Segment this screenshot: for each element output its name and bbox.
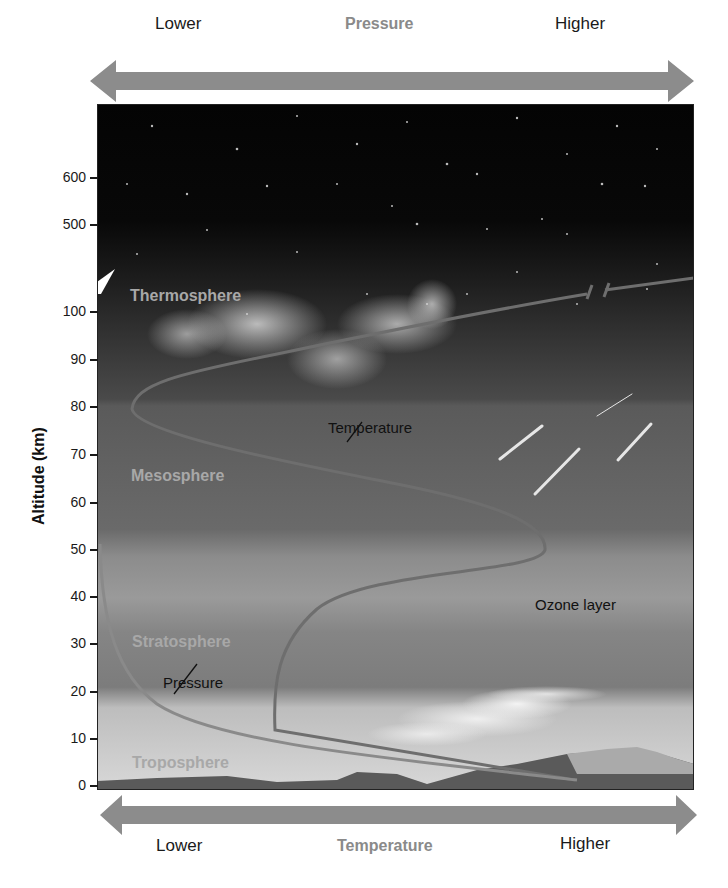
y-tick-label: 10 bbox=[46, 730, 86, 746]
y-tick-mark bbox=[90, 691, 98, 693]
y-tick-label: 60 bbox=[46, 494, 86, 510]
annotation-pressure: Pressure bbox=[163, 674, 223, 691]
y-tick-mark bbox=[90, 643, 98, 645]
y-tick-label: 20 bbox=[46, 683, 86, 699]
annotation-ozone-layer: Ozone layer bbox=[535, 596, 616, 613]
y-tick-mark bbox=[90, 738, 98, 740]
y-tick-mark bbox=[90, 454, 98, 456]
annotation-temperature: Temperature bbox=[328, 419, 412, 436]
y-tick-mark bbox=[90, 359, 98, 361]
y-tick-label: 30 bbox=[46, 635, 86, 651]
y-tick-label: 0 bbox=[46, 777, 86, 793]
y-tick-label: 70 bbox=[46, 446, 86, 462]
y-tick-label: 500 bbox=[46, 216, 86, 232]
y-tick-mark bbox=[90, 549, 98, 551]
y-tick-mark bbox=[90, 177, 98, 179]
temperature-lower-label: Lower bbox=[156, 836, 202, 856]
y-tick-label: 40 bbox=[46, 588, 86, 604]
temperature-axis-title: Temperature bbox=[337, 837, 433, 855]
pressure-axis-title: Pressure bbox=[345, 15, 414, 33]
layer-label-mesosphere: Mesosphere bbox=[131, 467, 224, 485]
y-tick-mark bbox=[90, 596, 98, 598]
y-tick-label: 50 bbox=[46, 541, 86, 557]
temperature-higher-label: Higher bbox=[560, 834, 610, 854]
y-tick-mark bbox=[90, 224, 98, 226]
y-axis-label: Altitude (km) bbox=[30, 427, 48, 525]
layer-label-stratosphere: Stratosphere bbox=[132, 633, 231, 651]
y-tick-mark bbox=[90, 502, 98, 504]
y-tick-label: 600 bbox=[46, 169, 86, 185]
y-tick-mark bbox=[90, 311, 98, 313]
y-tick-label: 100 bbox=[46, 303, 86, 319]
layer-label-troposphere: Troposphere bbox=[132, 754, 229, 772]
pressure-lower-label: Lower bbox=[155, 14, 201, 34]
y-tick-label: 80 bbox=[46, 398, 86, 414]
y-tick-label: 90 bbox=[46, 351, 86, 367]
y-tick-mark bbox=[90, 785, 98, 787]
temperature-double-arrow-icon bbox=[100, 795, 698, 835]
pressure-double-arrow-icon bbox=[90, 58, 695, 104]
layer-label-thermosphere: Thermosphere bbox=[130, 287, 241, 305]
pressure-higher-label: Higher bbox=[555, 14, 605, 34]
y-tick-mark bbox=[90, 406, 98, 408]
